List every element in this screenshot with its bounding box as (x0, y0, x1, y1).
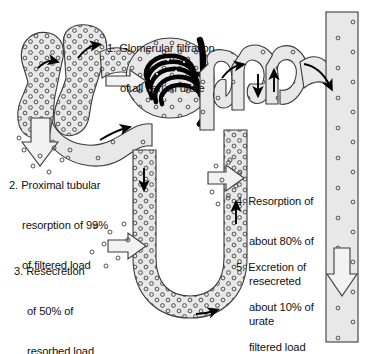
label-1-line-2: of all serum urate (107, 82, 215, 95)
label-3-line-1: 3. Resecretion (14, 265, 94, 278)
label-glomerular-filtration: 1. Glomerular filtration of all serum ur… (107, 15, 215, 122)
label-5-line-3: filtered load (236, 341, 314, 354)
distal-convoluted-tubule (200, 45, 330, 130)
label-3-line-3: resorbed load (14, 345, 94, 354)
label-1-line-1: 1. Glomerular filtration (107, 42, 215, 55)
label-3-line-2: of 50% of (14, 305, 94, 318)
label-2-line-1: 2. Proximal tubular (9, 179, 108, 192)
label-excretion: 5. Excretion of about 10% of filtered lo… (236, 234, 314, 354)
label-5-line-2: about 10% of (236, 301, 314, 314)
label-5-line-1: 5. Excretion of (236, 261, 314, 274)
label-resecretion: 3. Resecretion of 50% of resorbed load (14, 238, 94, 354)
label-4-line-1: 4. Resorption of (236, 195, 314, 208)
nephron-urate-diagram: 1. Glomerular filtration of all serum ur… (0, 0, 372, 354)
label-2-line-2: resorption of 99% (9, 219, 108, 232)
